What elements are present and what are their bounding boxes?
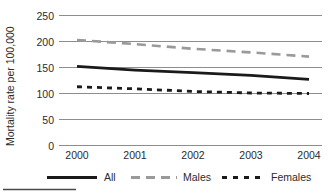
mortality-rate-line-chart: Mortality rate per 100,000 250 200 150 1… bbox=[0, 0, 329, 192]
x-tick-2002: 2002 bbox=[181, 149, 205, 161]
x-tick-2001: 2001 bbox=[123, 149, 147, 161]
y-tick-50: 50 bbox=[42, 114, 54, 126]
y-tick-250: 250 bbox=[36, 10, 54, 22]
legend-label-males: Males bbox=[183, 171, 211, 183]
legend-label-all: All bbox=[104, 171, 116, 183]
y-tick-200: 200 bbox=[36, 36, 54, 48]
y-tick-150: 150 bbox=[36, 62, 54, 74]
x-tick-2000: 2000 bbox=[65, 149, 89, 161]
y-tick-100: 100 bbox=[36, 88, 54, 100]
x-tick-2004: 2004 bbox=[297, 149, 321, 161]
y-axis-title: Mortality rate per 100,000 bbox=[4, 26, 16, 146]
legend-label-females: Females bbox=[271, 171, 311, 183]
x-tick-2003: 2003 bbox=[239, 149, 263, 161]
y-tick-0: 0 bbox=[48, 140, 54, 152]
chart-container: Mortality rate per 100,000 250 200 150 1… bbox=[0, 0, 329, 192]
